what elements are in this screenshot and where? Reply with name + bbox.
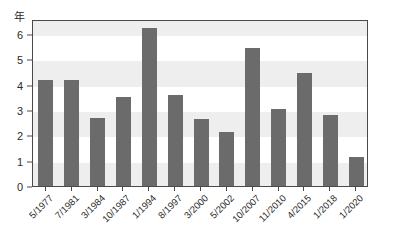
x-axis-tick-label: 4/2015 <box>286 193 313 220</box>
y-axis: 年 0123456 <box>0 0 32 244</box>
x-axis-tick-mark <box>122 187 123 191</box>
bar-chart: 年 0123456 5/19777/19813/198410/19871/199… <box>0 0 394 244</box>
x-axis-tick-label: 1/2020 <box>338 193 365 220</box>
bar <box>245 48 260 186</box>
y-axis-tick-label: 0 <box>17 182 23 193</box>
bar <box>38 80 53 186</box>
bar <box>194 119 209 186</box>
x-axis-tick-mark <box>303 187 304 191</box>
y-axis-tick-mark <box>27 111 32 112</box>
y-axis-tick-mark <box>27 60 32 61</box>
x-axis-tick-label: 11/2010 <box>257 193 288 224</box>
y-axis-tick-mark <box>27 161 32 162</box>
y-axis-tick-label: 2 <box>17 131 23 142</box>
bar <box>90 118 105 186</box>
x-axis-tick-label: 10/1987 <box>101 193 132 224</box>
bar <box>349 157 364 186</box>
bars-layer <box>33 21 367 186</box>
x-axis-tick-label: 10/2007 <box>230 193 261 224</box>
y-axis-tick-label: 1 <box>17 156 23 167</box>
x-axis-tick-mark <box>45 187 46 191</box>
bar <box>64 80 79 186</box>
bar <box>323 115 338 186</box>
x-axis-tick-mark <box>355 187 356 191</box>
x-axis-tick-mark <box>329 187 330 191</box>
x-axis-tick-label: 1/2018 <box>312 193 339 220</box>
x-axis-tick-mark <box>252 187 253 191</box>
bar <box>271 109 286 186</box>
x-axis-tick-mark <box>278 187 279 191</box>
y-axis-tick-label: 3 <box>17 106 23 117</box>
x-axis-tick-label: 7/1981 <box>53 193 80 220</box>
x-axis-tick-label: 8/1997 <box>157 193 184 220</box>
x-axis-tick-mark <box>71 187 72 191</box>
x-axis-tick-mark <box>174 187 175 191</box>
plot-area <box>32 20 368 187</box>
y-axis-tick-mark <box>27 35 32 36</box>
y-axis-unit-label: 年 <box>14 12 25 23</box>
y-axis-tick-label: 4 <box>17 80 23 91</box>
x-axis-tick-mark <box>226 187 227 191</box>
y-axis-tick-label: 5 <box>17 55 23 66</box>
bar <box>219 132 234 186</box>
y-axis-tick-label: 6 <box>17 30 23 41</box>
y-axis-tick-mark <box>27 136 32 137</box>
x-axis-tick-label: 3/2000 <box>182 193 209 220</box>
bar <box>168 95 183 186</box>
x-axis-tick-mark <box>148 187 149 191</box>
x-axis-tick-mark <box>97 187 98 191</box>
bar <box>297 73 312 186</box>
x-axis-tick-label: 1/1994 <box>131 193 158 220</box>
bar <box>116 97 131 186</box>
x-axis-tick-mark <box>200 187 201 191</box>
y-axis-tick-mark <box>27 85 32 86</box>
y-axis-tick-mark <box>27 187 32 188</box>
bar <box>142 28 157 186</box>
